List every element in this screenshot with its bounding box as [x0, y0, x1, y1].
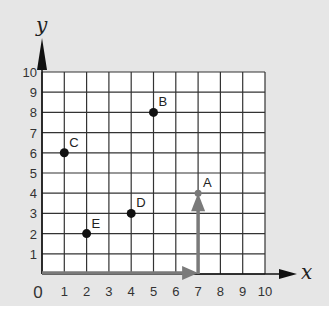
y-tick-label: 5 — [30, 166, 37, 181]
x-tick-label: 4 — [128, 284, 135, 299]
x-tick-label: 1 — [61, 284, 68, 299]
point-c-marker — [60, 148, 69, 157]
y-axis-label: y — [35, 13, 48, 37]
x-tick-label: 6 — [172, 284, 179, 299]
y-tick-label: 10 — [23, 65, 37, 80]
x-tick-label: 3 — [105, 284, 112, 299]
x-tick-label: 9 — [239, 284, 246, 299]
x-tick-label: 2 — [83, 284, 90, 299]
point-e-marker — [82, 229, 91, 238]
x-tick-label: 10 — [258, 284, 272, 299]
x-tick-label: 5 — [150, 284, 157, 299]
point-d-label: D — [136, 195, 145, 210]
coordinate-grid-figure: yx12345678910123456789100ABCDE — [0, 0, 329, 306]
coordinate-plane: yx12345678910123456789100ABCDE — [0, 0, 329, 306]
y-tick-label: 3 — [30, 206, 37, 221]
point-e-label: E — [92, 216, 101, 231]
point-b-marker — [149, 108, 158, 117]
point-a-marker — [195, 190, 202, 197]
x-axis-label: x — [301, 260, 312, 284]
y-tick-label: 2 — [30, 227, 37, 242]
x-axis-arrow-icon — [279, 269, 297, 279]
point-b-label: B — [159, 94, 168, 109]
point-c-label: C — [69, 135, 78, 150]
x-tick-label: 7 — [194, 284, 201, 299]
y-tick-label: 6 — [30, 146, 37, 161]
x-tick-label: 8 — [217, 284, 224, 299]
y-tick-label: 9 — [30, 85, 37, 100]
point-a-label: A — [203, 175, 212, 190]
origin-label: 0 — [33, 283, 42, 302]
y-tick-label: 8 — [30, 105, 37, 120]
y-axis-arrow-icon — [37, 38, 47, 70]
y-tick-label: 1 — [30, 247, 37, 262]
y-tick-label: 7 — [30, 126, 37, 141]
point-d-marker — [127, 209, 136, 218]
y-tick-label: 4 — [30, 186, 37, 201]
